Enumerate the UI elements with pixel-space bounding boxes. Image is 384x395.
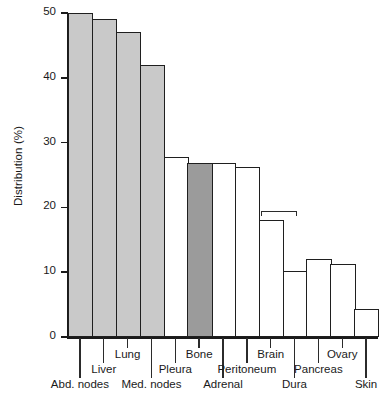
x-axis-label: Abd. nodes bbox=[51, 378, 109, 390]
bar bbox=[92, 19, 117, 337]
x-axis-leader-line bbox=[246, 338, 247, 363]
y-axis-tick-label: 40 bbox=[30, 70, 56, 82]
x-axis-label: Liver bbox=[91, 363, 116, 375]
y-axis-tick bbox=[61, 271, 68, 273]
x-axis-leader-line bbox=[175, 338, 176, 363]
x-axis-leader-line bbox=[365, 338, 366, 378]
y-axis-tick bbox=[61, 207, 68, 209]
y-axis-tick bbox=[61, 77, 68, 79]
x-axis-label: Pancreas bbox=[294, 363, 343, 375]
x-axis-label: Lung bbox=[115, 348, 141, 360]
bar bbox=[140, 65, 165, 337]
x-axis-leader-line bbox=[342, 338, 343, 348]
bar bbox=[306, 259, 331, 337]
x-axis-label: Peritoneum bbox=[217, 363, 276, 375]
x-axis-label: Adrenal bbox=[203, 378, 243, 390]
y-axis-tick-label: 10 bbox=[30, 264, 56, 276]
bar bbox=[68, 13, 93, 337]
x-axis-leader-line bbox=[151, 338, 152, 378]
x-axis-label: Ovary bbox=[327, 348, 358, 360]
x-axis-label: Pleura bbox=[159, 363, 192, 375]
bar bbox=[211, 163, 236, 337]
x-axis-label: Dura bbox=[282, 378, 307, 390]
x-axis-leader-line bbox=[198, 338, 199, 348]
y-axis-tick-label: 30 bbox=[30, 135, 56, 147]
x-axis-leader-line bbox=[127, 338, 128, 348]
x-axis-leader-line bbox=[79, 338, 80, 378]
y-axis-tick-label: 50 bbox=[30, 5, 56, 17]
bar bbox=[116, 32, 141, 337]
bracket-annotation bbox=[261, 211, 297, 216]
x-axis-label: Skin bbox=[355, 378, 377, 390]
bar bbox=[235, 167, 260, 337]
x-axis-leader-line bbox=[103, 338, 104, 363]
bar bbox=[354, 309, 379, 337]
bar bbox=[187, 163, 212, 337]
bar bbox=[330, 264, 355, 337]
bar bbox=[283, 271, 308, 337]
y-axis-title: Distribution (%) bbox=[12, 101, 24, 231]
x-axis-label: Med. nodes bbox=[121, 378, 181, 390]
x-axis-leader-line bbox=[270, 338, 271, 348]
y-axis-tick-label: 0 bbox=[30, 329, 56, 341]
x-axis-label: Bone bbox=[186, 348, 213, 360]
y-axis-tick-label: 20 bbox=[30, 199, 56, 211]
x-axis-label: Brain bbox=[257, 348, 284, 360]
y-axis-tick bbox=[61, 142, 68, 144]
plot-area bbox=[68, 13, 378, 337]
bar bbox=[163, 157, 188, 337]
x-axis-leader-line bbox=[318, 338, 319, 363]
y-axis-tick bbox=[61, 336, 68, 338]
y-axis-tick bbox=[61, 12, 68, 14]
bar bbox=[259, 220, 284, 337]
bar-chart: Distribution (%) 01020304050Abd. nodesLi… bbox=[0, 0, 384, 395]
